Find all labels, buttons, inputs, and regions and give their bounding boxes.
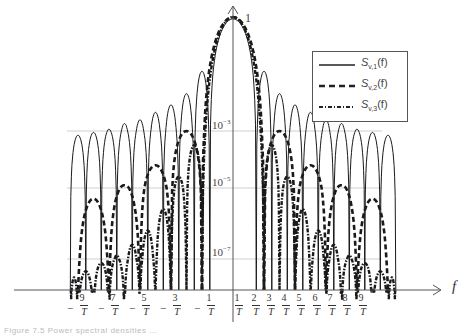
legend-item-sv2: Sv,2(f)	[317, 77, 407, 97]
figure-caption: Figure 7.5 Power spectral densities ...	[4, 326, 157, 335]
tick-numerator: 9	[71, 292, 93, 304]
tick-numerator: 5	[133, 292, 155, 304]
x-axis-label: f	[452, 278, 456, 295]
tick-denominator: T	[137, 306, 155, 318]
x-tick-label: −5T	[133, 292, 155, 318]
minus-sign: −	[129, 302, 135, 314]
tick-numerator: 1	[198, 292, 220, 304]
tick-numerator: 7	[102, 292, 124, 304]
tick-denominator: T	[202, 306, 220, 318]
dash-dot-line-icon	[317, 104, 357, 110]
y-tick-base: 10	[212, 119, 223, 131]
minus-sign: −	[98, 302, 104, 314]
legend-label: Sv,3(f)	[361, 98, 388, 112]
y-tick-base: 10	[212, 246, 223, 258]
dashed-line-icon	[317, 83, 357, 89]
tick-denominator: T	[168, 306, 186, 318]
x-tick-label: −9T	[71, 292, 93, 318]
x-tick-label: −1T	[198, 292, 220, 318]
tick-numerator: 9	[350, 292, 372, 304]
tick-denominator: T	[106, 306, 124, 318]
tick-denominator: T	[75, 306, 93, 318]
y-tick-1: 1	[245, 11, 251, 26]
y-tick-exp: −7	[223, 245, 230, 253]
y-tick-1e-5: 10−5	[212, 175, 230, 188]
tick-numerator: 3	[164, 292, 186, 304]
legend-label: Sv,1(f)	[361, 56, 388, 70]
series-sv2-curve	[78, 131, 202, 290]
y-tick-base: 10	[212, 176, 223, 188]
tick-denominator: T	[354, 306, 372, 318]
legend-item-sv3: Sv,3(f)	[317, 98, 407, 118]
x-tick-label: −3T	[164, 292, 186, 318]
x-tick-label: 9T	[350, 292, 372, 318]
legend: Sv,1(f) Sv,2(f) Sv,3(f)	[312, 51, 408, 122]
minus-sign: −	[67, 302, 73, 314]
legend-item-sv1: Sv,1(f)	[317, 56, 407, 76]
series-sv2-curve	[264, 131, 388, 290]
minus-sign: −	[194, 302, 200, 314]
x-tick-label: −7T	[102, 292, 124, 318]
y-tick-1e-7: 10−7	[212, 245, 230, 258]
y-tick-exp: −3	[223, 118, 230, 126]
y-tick-1e-3: 10−3	[212, 118, 230, 131]
solid-line-icon	[317, 62, 357, 68]
minus-sign: −	[160, 302, 166, 314]
series-sv3-curve	[70, 145, 202, 299]
y-tick-exp: −5	[223, 175, 230, 183]
legend-label: Sv,2(f)	[361, 77, 388, 91]
